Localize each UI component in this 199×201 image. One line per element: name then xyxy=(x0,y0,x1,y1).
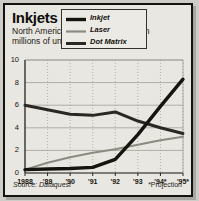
chart-panel: Inkjets Take Over North American printer… xyxy=(3,3,193,197)
y-axis-tick-label: 4 xyxy=(5,123,19,132)
x-axis-tick-label: '89 xyxy=(36,178,60,185)
x-axis-tick-label: '90 xyxy=(58,178,82,185)
line-chart-svg xyxy=(5,51,191,195)
y-axis-tick-label: 8 xyxy=(5,78,19,87)
x-axis-tick-label: '92 xyxy=(103,178,127,185)
y-axis-tick-label: 6 xyxy=(5,100,19,109)
plot-area xyxy=(5,51,191,195)
y-axis-tick-label: 0 xyxy=(5,168,19,177)
legend-label-dot-matrix: Dot Matrix xyxy=(90,37,127,46)
legend-label-laser: Laser xyxy=(90,25,110,34)
x-axis-tick-label: '94* xyxy=(148,178,172,185)
x-axis-tick-label: '93 xyxy=(126,178,150,185)
legend-item-dot-matrix: Dot Matrix xyxy=(66,37,144,48)
y-axis-tick-label: 2 xyxy=(5,145,19,154)
legend-label-inkjet: Inkjet xyxy=(90,13,110,22)
legend-swatch-inkjet xyxy=(66,17,86,22)
legend-swatch-laser xyxy=(66,29,86,34)
chart-legend: Inkjet Laser Dot Matrix xyxy=(61,9,147,49)
x-axis-tick-label: 1988 xyxy=(13,178,37,185)
x-axis-tick-label: '91 xyxy=(81,178,105,185)
legend-item-inkjet: Inkjet xyxy=(66,13,144,24)
legend-item-laser: Laser xyxy=(66,25,144,36)
legend-swatch-dot-matrix xyxy=(66,41,86,46)
y-axis-tick-label: 10 xyxy=(5,55,19,64)
x-axis-tick-label: '95* xyxy=(171,178,193,185)
